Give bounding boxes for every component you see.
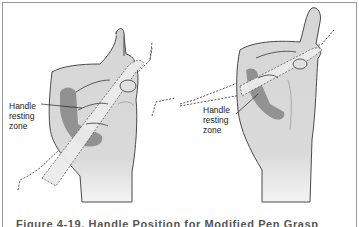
label-line: Handle xyxy=(9,101,36,111)
document-page: Handle resting zone Handle resting zone … xyxy=(0,0,359,227)
label-line: zone xyxy=(9,121,36,131)
label-line: Handle xyxy=(203,105,230,115)
figure-caption-text: Figure 4-19. Handle Position for Modifie… xyxy=(16,219,346,227)
label-line: resting xyxy=(9,111,36,121)
left-hand-illustration xyxy=(18,29,175,202)
label-line: resting xyxy=(203,115,230,125)
label-line: zone xyxy=(203,125,230,135)
left-handle-resting-zone-label: Handle resting zone xyxy=(9,101,36,131)
hand-grasp-illustration xyxy=(0,0,359,215)
right-handle-resting-zone-label: Handle resting zone xyxy=(203,105,230,135)
figure-caption: Figure 4-19. Handle Position for Modifie… xyxy=(16,219,346,227)
